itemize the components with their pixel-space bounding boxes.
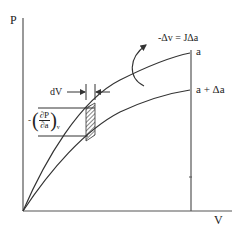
partial-minus: - (28, 116, 31, 125)
partial-denominator: ∂a (40, 121, 48, 130)
partial-numerator: ∂P (39, 111, 50, 121)
partial-fraction: ∂P ∂a (39, 111, 50, 130)
hatched-area (86, 103, 95, 141)
y-axis-label: P (10, 14, 17, 26)
shift-arrow (132, 45, 146, 86)
x-axis-label: V (214, 214, 223, 226)
curve-a-plus-delta-a-label: a + Δa (196, 84, 225, 95)
paren-open: ( (32, 110, 39, 130)
pv-diagram: P V a a + Δa -Δv = JΔa dV - ( ∂P ∂a ) v (0, 0, 243, 232)
partial-derivative-label: - ( ∂P ∂a ) v (28, 110, 60, 130)
dv-label: dV (50, 87, 62, 97)
paren-close: ) (50, 110, 57, 130)
partial-subscript: v (57, 124, 60, 130)
equation-label: -Δv = JΔa (158, 33, 198, 43)
curve-a (23, 53, 190, 211)
curve-a-label: a (196, 46, 201, 57)
